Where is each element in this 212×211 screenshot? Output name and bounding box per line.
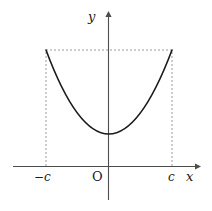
y-axis-arrowhead	[105, 11, 111, 17]
parabola-figure: y x −c O c	[0, 0, 212, 211]
x-axis-arrowhead	[195, 163, 201, 169]
x-tick-label-c: c	[168, 171, 175, 183]
origin-label: O	[92, 170, 103, 183]
x-tick-label-negative-c: −c	[34, 171, 51, 183]
x-axis-label: x	[186, 170, 193, 183]
figure-canvas	[0, 0, 212, 211]
x-axis	[13, 163, 201, 169]
y-axis	[105, 11, 111, 200]
y-axis-label: y	[88, 10, 95, 23]
